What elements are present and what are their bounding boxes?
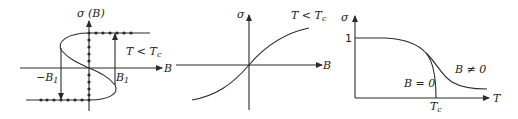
temperature-y-label: σ — [341, 11, 349, 24]
response-condition-label: T < Tc — [291, 9, 327, 23]
hysteresis-condition-label: T < Tc — [126, 45, 162, 59]
temperature-x-label: T — [493, 92, 502, 105]
neg-b1-label: −B1 — [36, 71, 58, 85]
diagram-canvas: σ (B) B T < Tc −B1 B1 σ B T < Tc σ 1 T T… — [0, 0, 518, 119]
b-zero-label: B = 0 — [403, 77, 435, 90]
hysteresis-panel — [20, 21, 162, 111]
response-x-label: B — [322, 59, 331, 72]
response-curve — [192, 28, 309, 100]
hysteresis-y-label: σ (B) — [77, 7, 105, 20]
hysteresis-x-label: B — [163, 62, 172, 75]
y-tick-one: 1 — [345, 32, 352, 45]
response-y-label: σ — [237, 8, 245, 21]
response-panel — [176, 15, 322, 110]
tc-tick-label: Tc — [430, 100, 442, 114]
pos-b1-label: B1 — [115, 71, 129, 85]
b-nonzero-label: B ≠ 0 — [454, 63, 486, 76]
